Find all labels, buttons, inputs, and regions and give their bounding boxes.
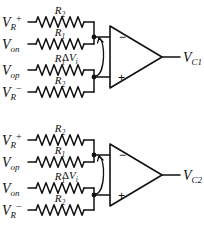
circuit-diagram: VR+R2VonR1VopR1VR−R2−+VC1ΔVi VR+R2VopR1V… bbox=[0, 0, 204, 233]
input-label-2: Von bbox=[2, 37, 20, 54]
resistor-4 bbox=[36, 87, 84, 97]
resistor-label-1: R2 bbox=[54, 122, 66, 137]
input-label-4: VR− bbox=[2, 201, 22, 221]
opamp-inverting-sign: − bbox=[119, 148, 126, 162]
resistor-label-1: R2 bbox=[54, 4, 66, 19]
opamp-noninverting-sign: + bbox=[118, 189, 125, 203]
opamp-noninverting-sign: + bbox=[118, 71, 125, 85]
stage-1-group: VR+R2VonR1VopR1VR−R2−+VC1ΔVi bbox=[2, 4, 202, 102]
input-label-1: VR+ bbox=[2, 13, 22, 33]
resistor-2 bbox=[36, 157, 84, 167]
delta-voltage-arrow bbox=[96, 38, 104, 76]
resistor-label-2: R1 bbox=[54, 144, 65, 159]
resistor-2 bbox=[36, 39, 84, 49]
opamp-inverting-sign: − bbox=[119, 30, 126, 44]
stage-2-group: VR+R2VopR1VonR1VR−R2−+VC2ΔVi bbox=[2, 122, 203, 220]
output-label: VC2 bbox=[183, 168, 203, 185]
input-label-1: VR+ bbox=[2, 131, 22, 151]
resistor-label-2: R1 bbox=[54, 26, 65, 41]
resistor-label-4: R2 bbox=[54, 192, 66, 207]
output-label: VC1 bbox=[183, 50, 202, 67]
schematic-canvas: VR+R2VonR1VopR1VR−R2−+VC1ΔVi VR+R2VopR1V… bbox=[0, 0, 204, 233]
input-label-4: VR− bbox=[2, 83, 22, 103]
input-label-3: Vop bbox=[2, 63, 20, 80]
resistor-label-4: R2 bbox=[54, 74, 66, 89]
input-label-3: Von bbox=[2, 181, 20, 198]
input-label-2: Vop bbox=[2, 155, 20, 172]
delta-voltage-arrow bbox=[96, 156, 104, 194]
resistor-4 bbox=[36, 205, 84, 215]
